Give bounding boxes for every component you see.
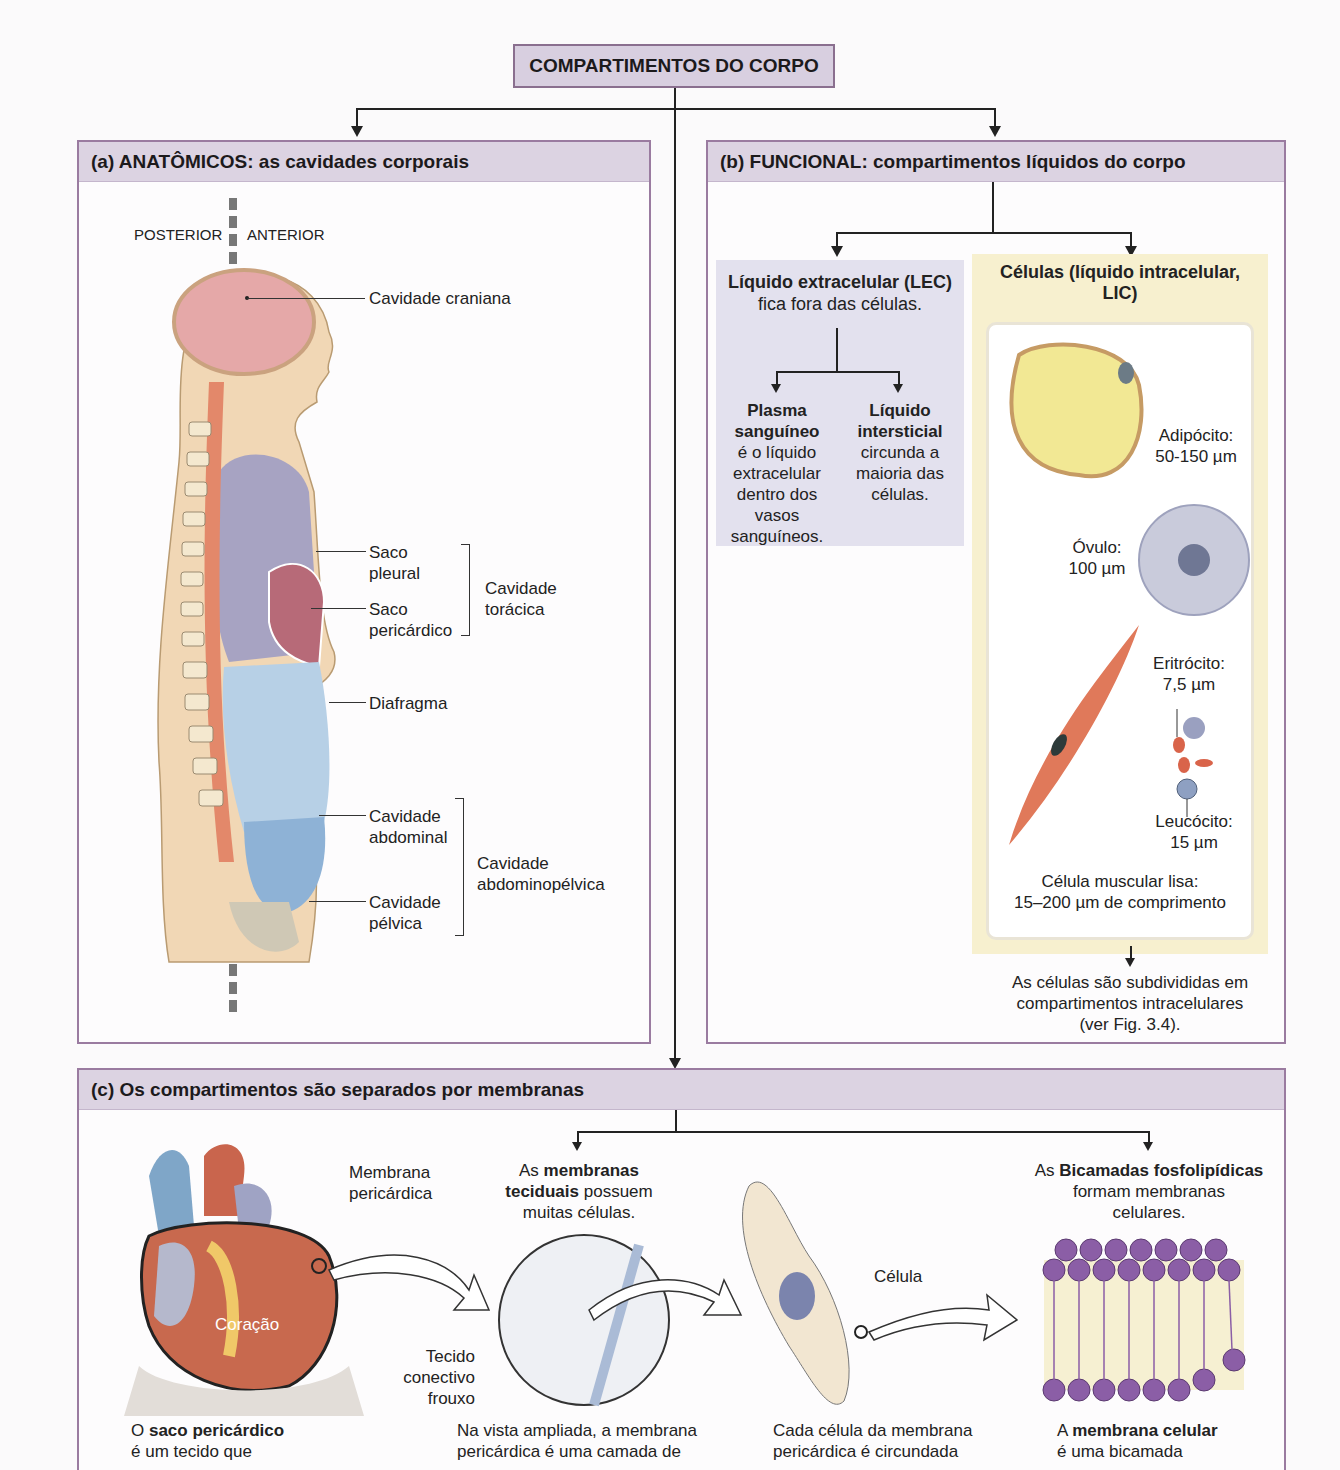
title-box: COMPARTIMENTOS DO CORPO xyxy=(513,44,835,88)
connector xyxy=(836,232,838,246)
connector xyxy=(992,182,994,234)
label-abdominal-cavity: Cavidadeabdominal xyxy=(369,806,447,848)
label-diaphragm: Diafragma xyxy=(369,693,447,714)
label-pleural-sac: Sacopleural xyxy=(369,542,420,584)
leader-line xyxy=(247,298,365,299)
label-pelvic-cavity: Cavidadepélvica xyxy=(369,892,441,934)
body-cavities-illustration xyxy=(149,262,369,982)
connector xyxy=(776,371,778,385)
panel-a-heading: (a) ANATÔMICOS: as cavidades corporais xyxy=(79,142,649,182)
connector xyxy=(994,108,996,128)
leukocyte-label: Leucócito:15 µm xyxy=(1139,811,1249,853)
label-cranial-cavity: Cavidade craniana xyxy=(369,288,511,309)
lec-title: Líquido extracelular (LEC) xyxy=(716,272,964,293)
connector xyxy=(1130,232,1132,246)
abdominopelvic-bracket xyxy=(455,798,464,936)
arrow-down-icon xyxy=(771,384,781,393)
interstitial-block: Líquido intersticial circunda a maioria … xyxy=(840,400,960,505)
panel-functional: (b) FUNCIONAL: compartimentos líquidos d… xyxy=(706,140,1286,1044)
label-pericardial-sac: Sacopericárdico xyxy=(369,599,452,641)
page-title: COMPARTIMENTOS DO CORPO xyxy=(529,55,819,76)
connector xyxy=(898,371,900,385)
panel-anatomical: (a) ANATÔMICOS: as cavidades corporais P… xyxy=(77,140,651,1044)
smooth-muscle-label: Célula muscular lisa:15–200 µm de compri… xyxy=(989,871,1251,913)
connector xyxy=(836,232,1132,234)
connector xyxy=(836,328,838,372)
leader-line xyxy=(316,551,366,552)
leader-line xyxy=(319,815,366,816)
arrow-down-icon xyxy=(893,384,903,393)
leader-line xyxy=(329,702,366,703)
leader-line xyxy=(309,901,366,902)
lic-box: Células (líquido intracelular,LIC) Adipó… xyxy=(972,254,1268,954)
erythrocyte-label: Eritrócito:7,5 µm xyxy=(1139,653,1239,695)
lec-subtitle: fica fora das células. xyxy=(716,294,964,315)
thoracic-bracket xyxy=(461,544,470,636)
adipocyte-label: Adipócito:50-150 µm xyxy=(1141,425,1251,467)
anterior-label: ANTERIOR xyxy=(247,224,325,245)
panel-membranes: (c) Os compartimentos são separados por … xyxy=(77,1068,1286,1470)
lic-title: Células (líquido intracelular,LIC) xyxy=(972,262,1268,304)
flow-arrows xyxy=(79,1070,1284,1470)
ovum-label: Óvulo:100 µm xyxy=(1057,537,1137,579)
connector xyxy=(356,108,358,128)
posterior-label: POSTERIOR xyxy=(134,224,222,245)
arrow-down-icon xyxy=(351,126,363,137)
arrow-down-icon xyxy=(989,126,1001,137)
connector xyxy=(674,88,676,1063)
cells-inner-box: Adipócito:50-150 µm Óvulo:100 µm Eritróc… xyxy=(986,322,1254,940)
cells-footer: As células são subdivididas em compartim… xyxy=(970,972,1290,1035)
arrow-down-icon xyxy=(831,246,843,257)
plasma-block: Plasma sanguíneo é o líquido extracelula… xyxy=(716,400,838,547)
leader-line xyxy=(311,608,366,609)
lec-box: Líquido extracelular (LEC) fica fora das… xyxy=(716,260,964,546)
panel-b-heading: (b) FUNCIONAL: compartimentos líquidos d… xyxy=(708,142,1284,182)
arrow-down-icon xyxy=(1125,958,1135,967)
label-thoracic-cavity: Cavidadetorácica xyxy=(485,578,557,620)
connector xyxy=(356,108,996,110)
connector xyxy=(776,371,899,373)
label-abdominopelvic-cavity: Cavidadeabdominopélvica xyxy=(477,853,605,895)
